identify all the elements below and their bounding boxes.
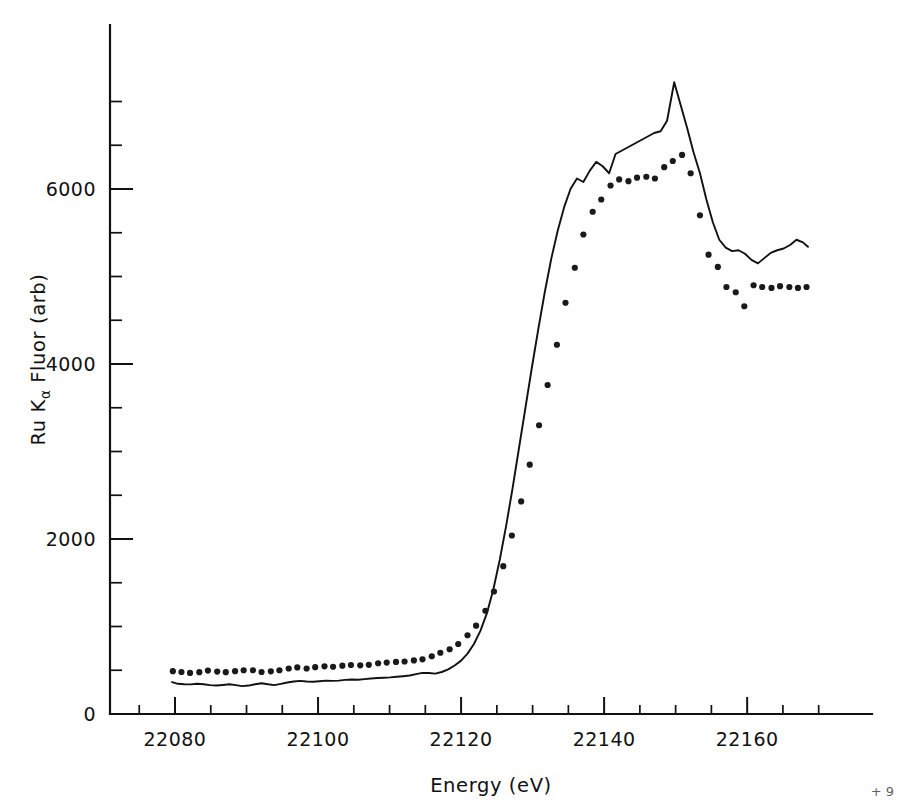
data-point [500, 563, 506, 569]
data-point [733, 289, 739, 295]
data-point [661, 164, 667, 170]
data-point [393, 659, 399, 665]
data-point [447, 646, 453, 652]
tick-marks-group [110, 102, 819, 715]
data-point [536, 422, 542, 428]
y-tick-label: 2000 [46, 528, 96, 550]
y-tick-label: 6000 [46, 178, 96, 200]
data-point [437, 650, 443, 656]
data-point [491, 588, 497, 594]
data-point [241, 667, 247, 673]
data-point [554, 342, 560, 348]
data-point [527, 462, 533, 468]
data-point [339, 663, 345, 669]
plot-canvas: 22080221002212022140221600200040006000 E… [0, 0, 900, 801]
x-axis-title: Energy (eV) [430, 774, 552, 797]
data-point [572, 265, 578, 271]
y-axis-title-subscript: α [37, 390, 53, 400]
data-point [590, 209, 596, 215]
data-point [545, 382, 551, 388]
data-point [401, 658, 407, 664]
data-point [697, 212, 703, 218]
x-tick-label: 22140 [573, 728, 636, 750]
data-point [482, 608, 488, 614]
data-point [196, 669, 202, 675]
data-point [786, 284, 792, 290]
data-point [348, 662, 354, 668]
data-point [258, 669, 264, 675]
x-tick-label: 22080 [144, 728, 207, 750]
data-point [214, 668, 220, 674]
data-point [759, 284, 765, 290]
data-point [178, 669, 184, 675]
data-point [741, 303, 747, 309]
x-tick-label: 22100 [287, 728, 350, 750]
data-point [777, 283, 783, 289]
data-point [375, 660, 381, 666]
series-dotted-points [170, 152, 810, 676]
data-point [679, 152, 685, 158]
data-point [688, 170, 694, 176]
xanes-figure: 22080221002212022140221600200040006000 E… [0, 0, 900, 801]
data-point [411, 657, 417, 663]
data-point [330, 664, 336, 670]
data-point [751, 282, 757, 288]
data-point [321, 663, 327, 669]
data-point [768, 285, 774, 291]
page-corner-artifact: + 9 [871, 784, 894, 799]
data-point [419, 656, 425, 662]
data-point [723, 284, 729, 290]
x-tick-label: 22120 [430, 728, 493, 750]
data-point [268, 668, 274, 674]
data-point [598, 196, 604, 202]
data-point [286, 665, 292, 671]
data-point [670, 158, 676, 164]
axis-titles-group: Energy (eV)Ru Kα Fluor (arb) [27, 273, 552, 797]
data-point [518, 498, 524, 504]
data-point [705, 252, 711, 258]
data-series-group [170, 82, 810, 686]
data-point [223, 669, 229, 675]
data-point [276, 667, 282, 673]
data-point [312, 664, 318, 670]
data-point [634, 175, 640, 181]
data-point [652, 175, 658, 181]
data-point [464, 632, 470, 638]
y-tick-label: 4000 [46, 353, 96, 375]
data-point [304, 665, 310, 671]
y-tick-label: 0 [83, 703, 96, 725]
data-point [580, 231, 586, 237]
data-point [607, 182, 613, 188]
data-point [187, 670, 193, 676]
data-point [473, 623, 479, 629]
y-axis-title: Ru Kα Fluor (arb) [27, 273, 53, 445]
data-point [232, 668, 238, 674]
data-point [616, 176, 622, 182]
data-point [294, 664, 300, 670]
tick-labels-group: 22080221002212022140221600200040006000 [46, 178, 779, 750]
data-point [205, 668, 211, 674]
data-point [384, 659, 390, 665]
y-axis-title-main: Ru K [27, 398, 50, 445]
data-point [625, 178, 631, 184]
data-point [250, 667, 256, 673]
data-point [803, 284, 809, 290]
data-point [170, 668, 176, 674]
data-point [643, 174, 649, 180]
series-solid-curve [172, 82, 808, 686]
data-point [562, 300, 568, 306]
data-point [366, 662, 372, 668]
axis-group [110, 25, 872, 714]
x-tick-label: 22160 [716, 728, 779, 750]
data-point [429, 653, 435, 659]
data-point [715, 264, 721, 270]
y-axis-title-rest: Fluor (arb) [27, 273, 50, 389]
data-point [509, 532, 515, 538]
data-point [795, 285, 801, 291]
data-point [455, 641, 461, 647]
data-point [357, 662, 363, 668]
